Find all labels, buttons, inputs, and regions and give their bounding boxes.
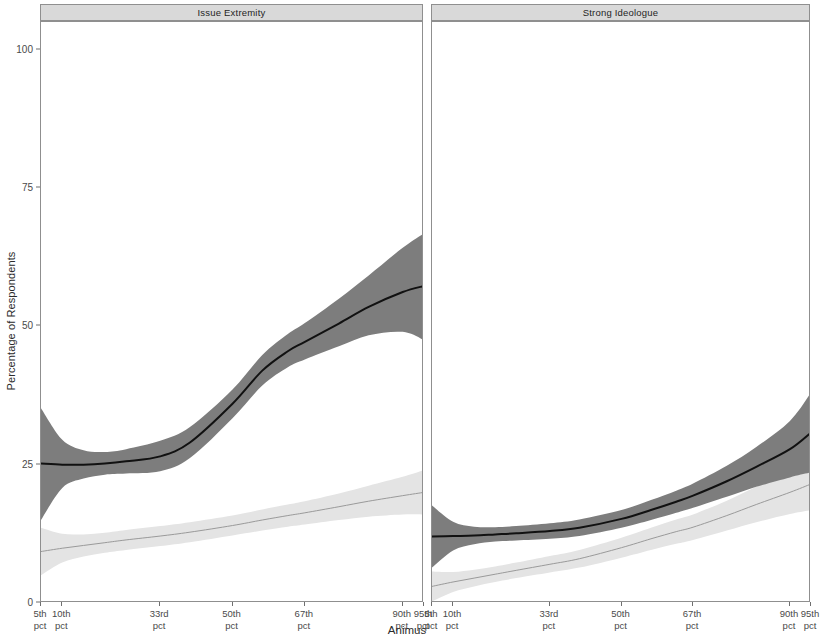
y-tick-label: 25 bbox=[7, 458, 33, 469]
facet-panel-strong-ideologue bbox=[431, 21, 810, 602]
x-tick-mark bbox=[61, 602, 62, 606]
facet-panel-issue-extremity bbox=[40, 21, 423, 602]
x-axis-title: Animus bbox=[0, 624, 814, 636]
y-tick-label: 0 bbox=[7, 597, 33, 608]
facet-plot-area bbox=[41, 22, 423, 602]
confidence-ribbon bbox=[41, 470, 423, 575]
facet-strip-strong-ideologue: Strong Ideologue bbox=[431, 4, 810, 21]
x-tick-mark bbox=[304, 602, 305, 606]
x-tick-mark bbox=[40, 602, 41, 606]
y-tick-label: 50 bbox=[7, 320, 33, 331]
x-tick-mark bbox=[159, 602, 160, 606]
facet-plot-area bbox=[432, 22, 810, 602]
x-tick-mark bbox=[789, 602, 790, 606]
x-tick-mark bbox=[810, 602, 811, 606]
x-tick-mark bbox=[423, 602, 424, 606]
x-tick-mark bbox=[232, 602, 233, 606]
x-tick-mark bbox=[452, 602, 453, 606]
x-tick-mark bbox=[621, 602, 622, 606]
y-tick-label: 75 bbox=[7, 182, 33, 193]
x-tick-mark bbox=[549, 602, 550, 606]
x-tick-mark bbox=[692, 602, 693, 606]
facet-strip-label: Strong Ideologue bbox=[583, 7, 659, 18]
facet-strip-label: Issue Extremity bbox=[198, 7, 266, 18]
facet-strip-issue-extremity: Issue Extremity bbox=[40, 4, 423, 21]
y-tick-label: 100 bbox=[7, 43, 33, 54]
x-tick-mark bbox=[431, 602, 432, 606]
confidence-ribbon bbox=[41, 233, 423, 520]
x-tick-mark bbox=[402, 602, 403, 606]
